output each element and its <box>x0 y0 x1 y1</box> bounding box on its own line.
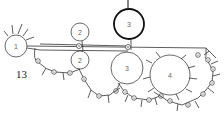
junction-bud-3 <box>126 45 131 50</box>
node-1: 1 <box>4 24 34 57</box>
svg-text:2: 2 <box>78 57 82 64</box>
node-2-top: 2 <box>71 23 89 41</box>
junction-bud-2 <box>77 41 84 51</box>
svg-text:3: 3 <box>125 65 129 72</box>
node-4: 4 <box>143 52 197 100</box>
node-1-label: 1 <box>14 43 18 50</box>
node-3-top: 3 <box>114 0 144 50</box>
figure-label: 13 <box>16 68 27 80</box>
branching-diagram: 1 2 2 3 3 4 <box>0 0 224 131</box>
svg-text:4: 4 <box>168 72 172 79</box>
node-3-bottom: 3 <box>111 52 143 84</box>
svg-text:2: 2 <box>78 29 82 36</box>
svg-text:3: 3 <box>127 21 131 28</box>
node-2-bottom: 2 <box>71 51 89 69</box>
